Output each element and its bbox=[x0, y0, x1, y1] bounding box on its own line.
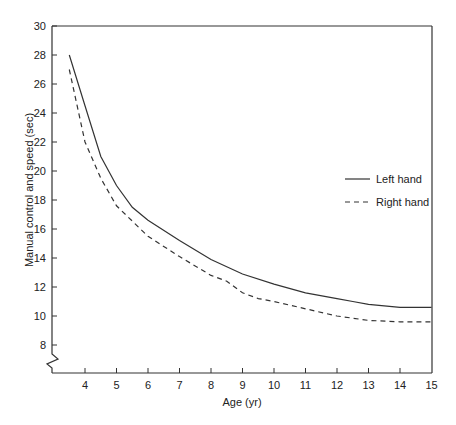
y-tick-label: 24 bbox=[34, 107, 46, 119]
y-tick-label: 28 bbox=[34, 49, 46, 61]
x-tick-label: 8 bbox=[208, 379, 214, 391]
x-axis-label: Age (yr) bbox=[222, 396, 261, 408]
legend-label-right-hand: Right hand bbox=[376, 196, 429, 208]
y-tick-label: 14 bbox=[34, 252, 46, 264]
y-tick-label: 10 bbox=[34, 310, 46, 322]
y-tick-label: 22 bbox=[34, 136, 46, 148]
x-tick-label: 15 bbox=[425, 379, 437, 391]
y-tick-label: 26 bbox=[34, 78, 46, 90]
y-tick-label: 18 bbox=[34, 194, 46, 206]
chart-legend: Left hand Right hand bbox=[345, 173, 429, 208]
x-tick-label: 13 bbox=[362, 379, 374, 391]
y-tick-label: 20 bbox=[34, 165, 46, 177]
y-tick-label: 8 bbox=[40, 339, 46, 351]
y-tick-label: 30 bbox=[34, 20, 46, 32]
chart-series bbox=[69, 55, 431, 322]
x-tick-label: 14 bbox=[394, 379, 406, 391]
x-tick-label: 5 bbox=[113, 379, 119, 391]
x-tick-label: 4 bbox=[82, 379, 88, 391]
legend-label-left-hand: Left hand bbox=[376, 173, 422, 185]
x-tick-label: 10 bbox=[268, 379, 280, 391]
x-tick-label: 11 bbox=[300, 379, 311, 391]
x-tick-label: 9 bbox=[239, 379, 245, 391]
x-tick-label: 6 bbox=[145, 379, 151, 391]
y-tick-label: 12 bbox=[34, 281, 46, 293]
line-chart: 8101214161820222426283045678910111213141… bbox=[0, 0, 456, 425]
y-tick-label: 16 bbox=[34, 223, 46, 235]
x-tick-label: 7 bbox=[176, 379, 182, 391]
y-axis-label: Manual control and speed (sec) bbox=[23, 113, 35, 267]
x-tick-label: 12 bbox=[331, 379, 343, 391]
